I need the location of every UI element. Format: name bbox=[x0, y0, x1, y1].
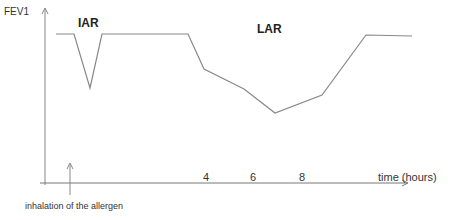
x-axis-label: time (hours) bbox=[378, 172, 437, 183]
chart-canvas bbox=[0, 0, 452, 220]
iar-label: IAR bbox=[78, 17, 99, 29]
x-tick-6: 6 bbox=[250, 172, 256, 183]
x-tick-4: 4 bbox=[203, 172, 209, 183]
fev1-line bbox=[56, 34, 412, 113]
lar-label: LAR bbox=[257, 23, 282, 35]
y-axis-label: FEV1 bbox=[4, 7, 29, 17]
x-tick-8: 8 bbox=[299, 172, 305, 183]
allergen-annotation: inhalation of the allergen bbox=[25, 202, 123, 211]
